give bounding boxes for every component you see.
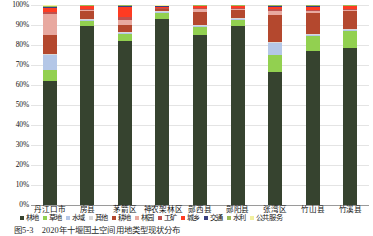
legend-item[interactable]: 交通: [204, 214, 223, 222]
legend-swatch: [20, 216, 24, 220]
y-axis-tick: 0%: [19, 201, 29, 209]
legend-label: 林地: [26, 214, 40, 222]
bar-segment: [43, 55, 57, 70]
bar-segment: [80, 26, 94, 205]
bar-segment: [193, 35, 207, 205]
legend-item[interactable]: 水域: [66, 214, 85, 222]
stacked-bar[interactable]: [231, 5, 245, 205]
figure-caption: 图5-3 2020年十堰国土空间用地类型现状分布: [14, 226, 364, 236]
stacked-bar[interactable]: [80, 5, 94, 205]
y-axis: 0%10%20%30%40%50%60%70%80%90%100%: [0, 0, 31, 210]
legend-label: 城乡: [187, 214, 201, 222]
bar-segment: [306, 13, 320, 34]
y-axis-tick: 20%: [16, 161, 29, 169]
legend-label: 耕地: [118, 214, 132, 222]
legend-item[interactable]: 草地: [43, 214, 62, 222]
bar-segment: [118, 34, 132, 41]
legend-item[interactable]: 林地: [20, 214, 39, 222]
legend-swatch: [227, 216, 231, 220]
legend-swatch: [66, 216, 70, 220]
bar-segment: [231, 26, 245, 205]
bar-segment: [193, 27, 207, 35]
stacked-bar[interactable]: [306, 5, 320, 205]
bar-segment: [306, 36, 320, 51]
legend-item[interactable]: 公共服务: [250, 214, 283, 222]
y-axis-tick: 10%: [16, 181, 29, 189]
legend-item[interactable]: 其他: [89, 214, 108, 222]
bar-segment: [343, 31, 357, 48]
legend-swatch: [158, 216, 162, 220]
stacked-bar[interactable]: [118, 5, 132, 205]
plot-area: [31, 5, 369, 205]
y-axis-tick: 70%: [16, 61, 29, 69]
bar-segment: [343, 11, 357, 29]
stacked-bar[interactable]: [268, 5, 282, 205]
y-axis-tick: 60%: [16, 81, 29, 89]
bar-segment: [43, 70, 57, 81]
bar-segment: [43, 35, 57, 54]
y-axis-tick: 50%: [16, 101, 29, 109]
bar-segment: [155, 19, 169, 205]
bar-segment: [343, 48, 357, 205]
legend-label: 其他: [95, 214, 109, 222]
legend-label: 水利: [233, 214, 247, 222]
legend-label: 草地: [49, 214, 63, 222]
legend-item[interactable]: 林园: [135, 214, 154, 222]
legend-item[interactable]: 城乡: [181, 214, 200, 222]
legend-swatch: [250, 216, 254, 220]
bar-segment: [118, 7, 132, 17]
chart-legend: 林地草地水域其他耕地林园工矿城乡交通水利公共服务: [20, 214, 365, 222]
legend-swatch: [112, 216, 116, 220]
bar-segment: [80, 11, 94, 19]
legend-label: 交通: [210, 214, 224, 222]
y-axis-tick: 90%: [16, 21, 29, 29]
legend-swatch: [181, 216, 185, 220]
bar-segment: [306, 51, 320, 205]
bar-segment: [268, 55, 282, 72]
bar-segment: [193, 12, 207, 25]
bar-segment: [268, 72, 282, 205]
stacked-bar[interactable]: [155, 5, 169, 205]
legend-swatch: [135, 216, 139, 220]
stacked-bar[interactable]: [43, 5, 57, 205]
legend-item[interactable]: 工矿: [158, 214, 177, 222]
y-axis-tick: 80%: [16, 41, 29, 49]
y-axis-tick: 100%: [12, 1, 29, 9]
legend-label: 水域: [72, 214, 86, 222]
stacked-bar[interactable]: [343, 5, 357, 205]
bar-segment: [43, 14, 57, 35]
bar-segment: [231, 10, 245, 18]
legend-swatch: [204, 216, 208, 220]
legend-swatch: [89, 216, 93, 220]
chart-root: 0%10%20%30%40%50%60%70%80%90%100% 丹江口市房县…: [0, 0, 373, 236]
y-axis-tick: 40%: [16, 121, 29, 129]
legend-item[interactable]: 水利: [227, 214, 246, 222]
legend-item[interactable]: 耕地: [112, 214, 131, 222]
bar-segment: [43, 81, 57, 205]
bar-segment: [268, 15, 282, 42]
legend-label: 林园: [141, 214, 155, 222]
legend-label: 工矿: [164, 214, 178, 222]
y-axis-tick: 30%: [16, 141, 29, 149]
stacked-bar[interactable]: [193, 5, 207, 205]
bar-segment: [268, 43, 282, 55]
bar-segment: [118, 41, 132, 205]
bar-segment: [118, 25, 132, 32]
legend-label: 公共服务: [256, 214, 283, 222]
legend-swatch: [43, 216, 47, 220]
